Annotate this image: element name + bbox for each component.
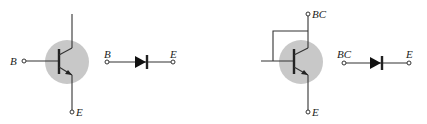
diagram-canvas: B E B E BC E BC E — [0, 0, 427, 124]
bc-terminal — [306, 12, 310, 16]
left-diode: B E — [104, 48, 177, 69]
base-label: B — [10, 55, 17, 67]
bc-label: BC — [312, 8, 327, 20]
left-transistor: B E — [10, 14, 89, 118]
diode-triangle-icon — [370, 57, 381, 69]
diode-cathode-label: E — [169, 48, 177, 60]
right-diode: BC E — [337, 48, 413, 70]
diode-anode-label: B — [104, 48, 111, 60]
diode-cathode-terminal — [407, 61, 411, 65]
diode-cathode-terminal — [171, 60, 175, 64]
emitter-terminal — [70, 110, 74, 114]
emitter-label: E — [75, 106, 83, 118]
base-terminal — [22, 59, 26, 63]
diode-triangle-icon — [135, 56, 146, 68]
diode-cathode-label: E — [405, 48, 413, 60]
transistor-body — [279, 40, 323, 84]
right-transistor: BC E — [261, 8, 327, 118]
transistor-body — [45, 40, 89, 84]
diode-anode-terminal — [342, 61, 346, 65]
diode-anode-terminal — [105, 60, 109, 64]
diode-anode-label: BC — [337, 48, 352, 60]
emitter-terminal — [306, 110, 310, 114]
emitter-label: E — [311, 106, 319, 118]
